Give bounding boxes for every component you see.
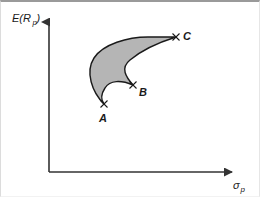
point-a-label: A: [98, 112, 107, 124]
plot-canvas: E(R p ) σ p A B C: [0, 0, 260, 197]
x-axis-label: σ p: [233, 179, 246, 194]
y-axis-label: E(R p ): [12, 12, 41, 27]
x-axis-label-main: σ: [233, 179, 240, 191]
y-axis-label-main: E(R: [12, 12, 31, 24]
point-b-marker: [130, 82, 137, 89]
x-axis-label-subscript: p: [240, 185, 246, 194]
point-a-marker: [101, 101, 108, 108]
opportunity-set-region: [90, 37, 176, 104]
portfolio-opportunity-set-figure: E(R p ) σ p A B C: [0, 0, 260, 197]
point-b-label: B: [139, 86, 147, 98]
point-c-label: C: [183, 30, 192, 42]
